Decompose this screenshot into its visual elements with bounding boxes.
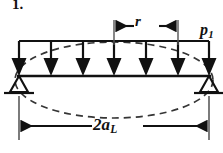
load-arrow xyxy=(44,41,59,76)
label-p1: p1 xyxy=(200,22,214,40)
label-p1-base: p xyxy=(200,21,208,38)
label-span-base: 2a xyxy=(93,115,110,134)
label-r-text: r xyxy=(135,13,141,29)
load-arrow xyxy=(171,41,186,76)
load-arrow xyxy=(12,41,27,76)
load-arrow xyxy=(139,41,154,76)
label-r: r xyxy=(135,14,141,29)
load-arrow xyxy=(76,41,91,76)
support-left xyxy=(4,76,34,93)
beam-load-diagram: 1. xyxy=(0,0,223,153)
label-span: 2aL xyxy=(93,116,117,136)
load-arrow xyxy=(202,41,217,76)
load-arrow xyxy=(107,41,122,76)
label-span-subscript: L xyxy=(110,123,117,136)
label-p1-subscript: 1 xyxy=(208,28,213,40)
distributed-load-arrows xyxy=(12,41,217,76)
support-right xyxy=(194,76,223,93)
